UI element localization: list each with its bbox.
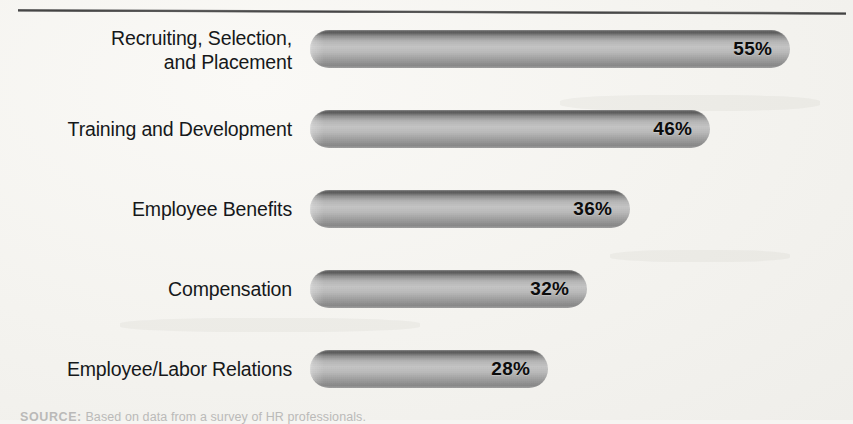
bar-track: 55% bbox=[310, 30, 790, 68]
category-label: Compensation bbox=[0, 278, 292, 301]
bar-row: Training and Development 46% bbox=[0, 110, 853, 148]
bar-row: Employee/Labor Relations 28% bbox=[0, 350, 853, 388]
bar-track: 28% bbox=[310, 350, 548, 388]
source-text: Based on data from a survey of HR profes… bbox=[82, 410, 366, 424]
bar-row: Recruiting, Selection, and Placement 55% bbox=[0, 30, 853, 68]
bar-value-label: 32% bbox=[530, 270, 569, 308]
bar-track: 36% bbox=[310, 190, 630, 228]
bar: 28% bbox=[310, 350, 548, 388]
bar: 55% bbox=[310, 30, 790, 68]
bar-value-label: 28% bbox=[491, 350, 530, 388]
category-label: Employee/Labor Relations bbox=[0, 358, 292, 381]
category-label: Training and Development bbox=[0, 118, 292, 141]
top-divider-rule bbox=[18, 9, 846, 15]
bar-row: Employee Benefits 36% bbox=[0, 190, 853, 228]
category-label: Recruiting, Selection, and Placement bbox=[0, 26, 292, 74]
category-label: Employee Benefits bbox=[0, 198, 292, 221]
plot-area: Recruiting, Selection, and Placement 55%… bbox=[0, 22, 853, 397]
bar-row: Compensation 32% bbox=[0, 270, 853, 308]
bar: 36% bbox=[310, 190, 630, 228]
bar: 46% bbox=[310, 110, 710, 148]
source-lead: SOURCE: bbox=[20, 410, 82, 424]
bar-value-label: 36% bbox=[573, 190, 612, 228]
bar-track: 46% bbox=[310, 110, 710, 148]
bar-value-label: 55% bbox=[733, 30, 772, 68]
source-note: SOURCE: Based on data from a survey of H… bbox=[20, 410, 366, 424]
bar-track: 32% bbox=[310, 270, 587, 308]
bar-value-label: 46% bbox=[653, 110, 692, 148]
bar: 32% bbox=[310, 270, 587, 308]
